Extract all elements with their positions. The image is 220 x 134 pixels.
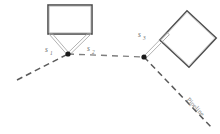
label-s1-base: s bbox=[45, 45, 48, 54]
label-pipeline: Pipeline bbox=[185, 96, 207, 118]
diagram-svg: s 1 s 2 s 3 Pipeline bbox=[0, 0, 220, 134]
diagram-canvas: s 1 s 2 s 3 Pipeline bbox=[0, 0, 220, 134]
label-s1: s 1 bbox=[45, 45, 53, 56]
label-s3-base: s bbox=[138, 30, 141, 39]
label-s3-subscript: 3 bbox=[143, 35, 146, 41]
label-s1-subscript: 1 bbox=[50, 50, 53, 56]
left-building bbox=[48, 5, 92, 34]
node-right bbox=[141, 54, 146, 59]
label-s3: s 3 bbox=[138, 30, 146, 41]
pipeline-dashed-line bbox=[144, 57, 212, 128]
centre-dashed-line bbox=[68, 54, 144, 57]
connector-s2-line-b bbox=[68, 34, 88, 53]
right-building-outline bbox=[160, 11, 217, 68]
node-left bbox=[65, 51, 70, 56]
connector-s1-line-b bbox=[53, 34, 70, 53]
label-s2-subscript: 2 bbox=[92, 49, 95, 55]
right-building bbox=[160, 11, 217, 68]
left-building-outline bbox=[48, 5, 92, 34]
lower-left-dashed-line bbox=[17, 54, 68, 80]
label-s2-base: s bbox=[87, 44, 90, 53]
label-s2: s 2 bbox=[87, 44, 95, 55]
